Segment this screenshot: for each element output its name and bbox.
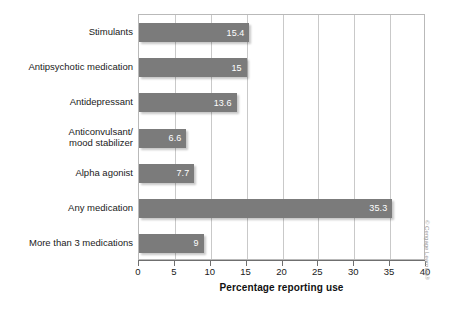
bar-value-label: 6.6 (169, 134, 182, 143)
category-label: More than 3 medications (0, 237, 133, 248)
x-axis-tick-label: 35 (384, 266, 395, 278)
x-axis-tick-label: 20 (276, 266, 287, 278)
bar-chart-figure: 15.41513.66.67.735.39 StimulantsAntipsyc… (0, 0, 454, 312)
category-label: Antidepressant (0, 96, 133, 107)
bar-row: 15 (139, 58, 424, 77)
bar-row: 9 (139, 234, 424, 253)
category-label: Anticonvulsant/ mood stabilizer (0, 126, 133, 148)
bar: 9 (139, 234, 204, 253)
category-label: Alpha agonist (0, 167, 133, 178)
bar-value-label: 15 (231, 63, 241, 72)
category-axis-labels: StimulantsAntipsychotic medicationAntide… (0, 14, 133, 260)
bar: 15 (139, 58, 247, 77)
x-axis-tick-label: 30 (348, 266, 359, 278)
x-axis-tick-label: 15 (240, 266, 251, 278)
bar-row: 35.3 (139, 199, 424, 218)
copyright-credit: © Cengage Learning® (423, 220, 430, 280)
x-axis-tick-label: 25 (312, 266, 323, 278)
bar-value-label: 15.4 (227, 28, 245, 37)
bar-value-label: 9 (193, 239, 198, 248)
bar-value-label: 7.7 (176, 169, 189, 178)
category-label: Stimulants (0, 26, 133, 37)
bar-row: 7.7 (139, 164, 424, 183)
bar-value-label: 13.6 (214, 98, 232, 107)
bar: 13.6 (139, 93, 237, 112)
x-axis-tick-label: 10 (204, 266, 215, 278)
bar: 7.7 (139, 164, 194, 183)
x-axis-tick-label: 5 (171, 266, 176, 278)
bar: 35.3 (139, 199, 392, 218)
category-label: Antipsychotic medication (0, 61, 133, 72)
x-axis (138, 260, 425, 262)
x-axis-title: Percentage reporting use (138, 281, 425, 294)
category-label: Any medication (0, 202, 133, 213)
x-axis-tick-labels: 0510152025303540 (138, 266, 425, 280)
bar-row: 6.6 (139, 129, 424, 148)
x-axis-tick-label: 0 (135, 266, 140, 278)
bar-row: 13.6 (139, 93, 424, 112)
bar-series: 15.41513.66.67.735.39 (139, 15, 424, 259)
bar: 6.6 (139, 129, 186, 148)
bar-row: 15.4 (139, 23, 424, 42)
bar: 15.4 (139, 23, 249, 42)
plot-area: 15.41513.66.67.735.39 (138, 14, 425, 260)
bar-value-label: 35.3 (369, 204, 387, 213)
